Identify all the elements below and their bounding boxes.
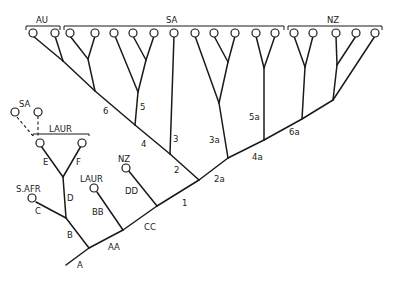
leaf-nz-1 (290, 29, 298, 37)
leaf-sa-1 (66, 29, 74, 37)
sa-6-inner2 (88, 36, 95, 59)
branch-label-AA: AA (108, 242, 120, 252)
nz-inner-a (302, 67, 305, 119)
branch-label-DD: DD (125, 186, 139, 196)
branch-5 (135, 92, 138, 125)
nz-inner-a2 (305, 36, 313, 67)
branch-label-2: 2 (174, 165, 179, 175)
tip-label-nz: NZ (118, 154, 130, 164)
nz-inner-c (333, 36, 375, 100)
sa-6-inner (70, 36, 95, 91)
sa-3a-inner (195, 36, 219, 103)
nz-inner-b2 (337, 36, 356, 65)
branch-label-A: A (77, 260, 83, 270)
branch-label-5: 5 (140, 102, 145, 112)
leaf-sa-4 (129, 29, 137, 37)
sa-3a-inner2 (219, 36, 235, 103)
au-group-label: AU (36, 15, 48, 25)
branch-label-6a: 6a (289, 127, 300, 137)
branch-6 (63, 61, 135, 125)
branch-1 (157, 180, 199, 206)
leaf-au-1 (29, 29, 37, 37)
leaf-sa-7 (191, 29, 199, 37)
leaf-sa-11 (271, 29, 279, 37)
leaf-sa-5 (150, 29, 158, 37)
branch-label-BB: BB (92, 207, 104, 217)
leaf-laur-F (78, 139, 86, 147)
leaf-s-afr (28, 194, 36, 202)
branch-D (63, 177, 66, 218)
leaf-sa-3 (110, 29, 118, 37)
nz-inner-b1 (336, 36, 337, 65)
branch-label-4: 4 (141, 139, 146, 149)
nz-inner-a1 (294, 36, 305, 67)
branch-3a (219, 103, 228, 158)
leaf-au-2 (51, 29, 59, 37)
leaf-nz-DD (122, 164, 130, 172)
branch-label-D: D (67, 193, 74, 203)
leaf-sa-6 (170, 29, 178, 37)
sa-dashed-label: SA (19, 99, 31, 109)
sa-group-label: SA (166, 15, 178, 25)
leaf-nz-5 (371, 29, 379, 37)
sa-5-inner3 (133, 36, 146, 60)
leaf-laur-BB (90, 184, 98, 192)
leaf-laur-E (36, 139, 44, 147)
laur-bracket (33, 134, 89, 136)
branch-label-4a: 4a (252, 152, 263, 162)
branch-label-5a: 5a (249, 112, 260, 122)
branch-label-B: B (67, 230, 73, 240)
leaf-sa-dashed-2 (34, 108, 42, 116)
branch-label-F: F (76, 157, 81, 167)
sa-dashed-link-1 (17, 117, 33, 136)
sa-5a-inner (256, 36, 264, 68)
branch-label-C: C (35, 206, 41, 216)
branch-label-E: E (43, 157, 48, 167)
leaf-nz-4 (352, 29, 360, 37)
nz-group-label: NZ (327, 15, 339, 25)
branch-label-2a: 2a (214, 174, 225, 184)
leaf-nz-2 (309, 29, 317, 37)
branch-label-3a: 3a (209, 135, 220, 145)
leaf-sa-9 (231, 29, 239, 37)
leaf-sa-2 (91, 29, 99, 37)
sa-5-inner2 (138, 36, 154, 92)
laur-group-label: LAUR (49, 124, 72, 134)
branch-label-3: 3 (173, 134, 178, 144)
branch-label-CC: CC (144, 222, 156, 232)
tip-label-laur: LAUR (80, 174, 103, 184)
leaf-nz-3 (332, 29, 340, 37)
cladogram: AU SA NZ LAUR SA (0, 0, 395, 282)
sa-3a-inner3 (214, 36, 228, 62)
branch-label-6: 6 (103, 106, 108, 116)
branch-label-1: 1 (182, 198, 187, 208)
sa-5-inner (115, 36, 138, 92)
leaf-sa-dashed-1 (11, 108, 19, 116)
group-brackets (26, 26, 382, 136)
leaf-sa-10 (252, 29, 260, 37)
tip-label-s-afr: S.AFR (16, 184, 41, 194)
sa-5a-inner2 (264, 36, 275, 68)
leaf-sa-8 (210, 29, 218, 37)
